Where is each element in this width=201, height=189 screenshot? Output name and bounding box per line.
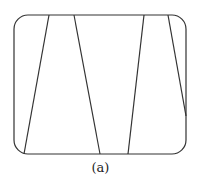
- dividing-line-4: [168, 15, 186, 116]
- rounded-frame: [14, 15, 186, 154]
- dividing-line-2: [74, 15, 100, 154]
- dividing-lines: [24, 15, 186, 154]
- figure-caption: (a): [0, 160, 201, 175]
- dividing-line-3: [128, 15, 144, 154]
- dividing-line-1: [24, 15, 49, 154]
